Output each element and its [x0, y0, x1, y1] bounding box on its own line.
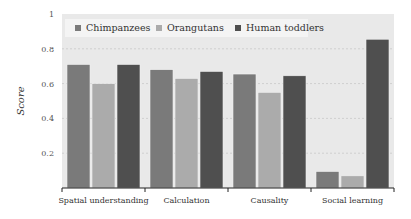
bar-orangutans [258, 92, 281, 188]
legend-swatch-icon [235, 25, 241, 31]
x-category-label: Spatial understanding [58, 196, 148, 205]
legend-swatch-icon [156, 25, 162, 31]
y-axis-ticks: 0.20.40.60.81 [41, 10, 54, 158]
bar-orangutans [175, 78, 198, 188]
bar-human-toddlers [283, 76, 306, 188]
legend: ChimpanzeesOrangutansHuman toddlers [65, 19, 324, 37]
bar-chart: 0.20.40.60.81 Spatial understandingCalcu… [0, 0, 411, 219]
legend-swatch-icon [75, 25, 81, 31]
y-tick-label: 0.2 [41, 149, 54, 158]
bar-orangutans [92, 84, 115, 188]
x-axis: Spatial understandingCalculationCausalit… [58, 188, 394, 205]
bar-human-toddlers [366, 39, 389, 188]
legend-label: Orangutans [167, 22, 224, 33]
bar-chimpanzees [150, 70, 173, 188]
bar-chimpanzees [67, 64, 90, 188]
y-tick-label: 0.8 [41, 45, 54, 54]
y-tick-label: 0.6 [41, 80, 54, 89]
x-category-label: Social learning [322, 196, 383, 205]
bar-chimpanzees [233, 74, 256, 188]
legend-label: Human toddlers [246, 22, 324, 33]
bar-human-toddlers [200, 71, 223, 188]
bar-chimpanzees [316, 171, 339, 188]
bar-orangutans [341, 176, 364, 188]
y-axis-label: Score [15, 86, 26, 115]
y-tick-label: 0.4 [41, 114, 54, 123]
bar-human-toddlers [117, 64, 140, 188]
y-tick-label: 1 [49, 10, 54, 19]
legend-label: Chimpanzees [86, 22, 151, 33]
x-category-label: Calculation [163, 196, 209, 205]
x-category-label: Causality [251, 196, 289, 205]
